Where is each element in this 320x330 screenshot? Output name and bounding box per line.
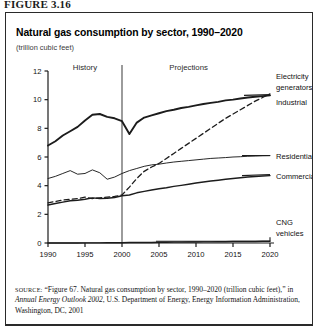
chart-title: Natural gas consumption by sector, 1990–… [16,27,243,38]
figure-card: Natural gas consumption by sector, 1990–… [5,12,313,325]
series-line-commercial [48,176,270,205]
y-tick-label: 6 [37,153,41,162]
period-annotation: Projections [169,63,208,72]
chart-period-annotations: HistoryProjections [73,63,208,72]
chart-series-lines [48,94,270,243]
chart-plot-area: 024681012 1990199520002005201020152020 H… [6,57,312,279]
y-tick-label: 4 [37,181,41,190]
x-tick-label: 1990 [40,250,57,259]
x-tick-label: 1995 [77,250,94,259]
y-tick-label: 10 [33,95,41,104]
period-annotation: History [73,63,97,72]
figure-number-label: FIGURE 3.16 [4,0,71,10]
source-note: SOURCE: “Figure 67. Natural gas consumpt… [15,285,305,316]
leader-line [244,95,270,96]
series-label-cng-vehicles: CNG [276,218,293,227]
series-line-electricity-generators [48,94,270,203]
series-label-industrial: Industrial [276,98,307,107]
y-axis-tick-labels: 024681012 [33,67,48,248]
source-text-part1: “Figure 67. Natural gas consumption by s… [43,285,294,294]
series-label-electricity-generators: generators [276,83,312,92]
series-label-cng-vehicles: vehicles [276,229,304,238]
source-publication-title: Annual Energy Outlook 2002 [15,295,103,304]
series-leader-lines [156,95,270,242]
x-tick-label: 2015 [225,250,242,259]
chart-subtitle: (trillion cubic feet) [16,43,74,52]
bottom-divider-rule [5,325,313,326]
x-tick-label: 2020 [262,250,279,259]
y-tick-label: 12 [33,67,41,76]
series-label-residential: Residential [276,152,312,161]
source-keyword: SOURCE: [15,286,43,293]
series-label-commercial: Commercial [276,172,312,181]
y-tick-label: 2 [37,210,41,219]
x-axis-tick-labels: 1990199520002005201020152020 [40,243,279,259]
series-labels: ElectricitygeneratorsIndustrialResidenti… [276,72,312,238]
x-tick-label: 2000 [114,250,131,259]
x-tick-label: 2010 [188,250,205,259]
series-label-electricity-generators: Electricity [276,72,309,81]
series-line-residential [48,156,270,180]
x-tick-label: 2005 [151,250,168,259]
y-tick-label: 0 [37,239,41,248]
line-chart-svg: 024681012 1990199520002005201020152020 H… [6,57,312,279]
series-line-industrial [48,95,270,145]
y-tick-label: 8 [37,124,41,133]
